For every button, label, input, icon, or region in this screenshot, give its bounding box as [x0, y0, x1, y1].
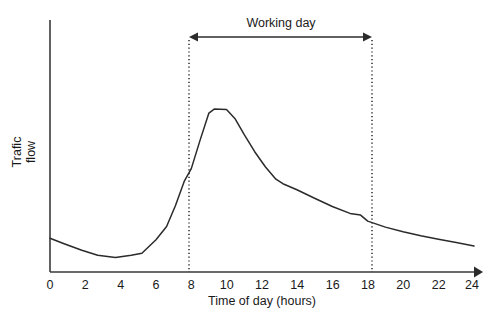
x-tick-label: 22 [432, 278, 446, 292]
x-tick-label: 16 [326, 278, 340, 292]
y-axis-title: Trafic flow [10, 137, 38, 168]
x-tick-labels: 0 2 4 6 8 10 12 14 16 18 20 22 24 [47, 278, 479, 292]
chart-canvas: Working day 0 2 4 6 8 10 12 14 16 18 20 … [0, 0, 500, 320]
x-tick-label: 6 [153, 278, 160, 292]
working-day-right-arrow-icon [363, 33, 372, 42]
y-axis-title-line1: Trafic [10, 137, 24, 168]
traffic-flow-chart: Working day 0 2 4 6 8 10 12 14 16 18 20 … [0, 0, 500, 320]
x-tick-label: 12 [255, 278, 269, 292]
traffic-flow-curve [50, 109, 474, 258]
x-tick-label: 4 [117, 278, 124, 292]
y-axis-title-line2: flow [24, 140, 38, 163]
x-tick-label: 0 [47, 278, 54, 292]
working-day-left-arrow-icon [189, 33, 198, 42]
x-axis-arrow-icon [474, 267, 483, 278]
working-day-label: Working day [246, 16, 316, 30]
x-tick-label: 20 [396, 278, 410, 292]
x-tick-label: 24 [465, 278, 479, 292]
x-tick-label: 14 [290, 278, 304, 292]
x-tick-label: 18 [361, 278, 375, 292]
x-tick-label: 10 [220, 278, 234, 292]
x-tick-label: 8 [188, 278, 195, 292]
x-axis-title: Time of day (hours) [208, 294, 316, 308]
x-tick-label: 2 [82, 278, 89, 292]
